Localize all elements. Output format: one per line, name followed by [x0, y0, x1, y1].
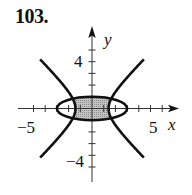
tick-label-y-neg4: −4 — [66, 152, 85, 171]
tick-label-x-neg5: −5 — [17, 118, 35, 137]
x-axis-label: x — [167, 115, 176, 134]
y-axis-label: y — [102, 30, 112, 49]
tick-label-y-4: 4 — [74, 52, 83, 71]
tick-label-x-5: 5 — [149, 118, 158, 137]
graph: y x 4 −4 −5 5 — [0, 0, 192, 195]
